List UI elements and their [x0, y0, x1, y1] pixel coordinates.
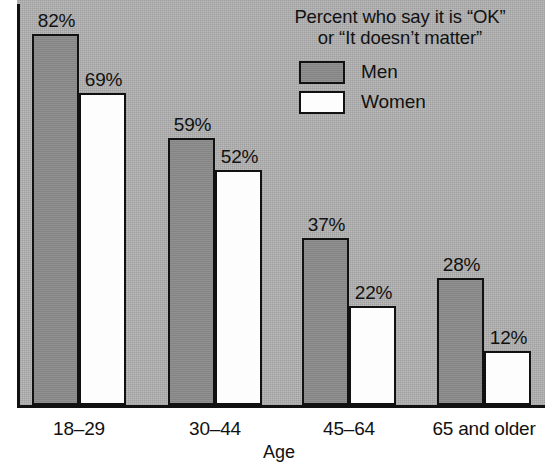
- bar-men-30-44: [168, 138, 215, 405]
- legend-label-men: Men: [361, 61, 398, 83]
- value-label-women-30-44: 52%: [213, 146, 266, 168]
- x-tick-label-30-44: 30–44: [140, 418, 290, 440]
- y-axis-line: [17, 4, 20, 408]
- x-axis-line: [17, 405, 545, 408]
- value-label-women-45-64: 22%: [347, 282, 400, 304]
- legend-swatch-men: [299, 61, 345, 84]
- bar-women-65-older: [484, 351, 531, 405]
- bar-women-30-44: [215, 170, 262, 405]
- bar-women-45-64: [349, 306, 396, 405]
- legend-swatch-women: [299, 91, 345, 114]
- legend-items: Men Women: [255, 57, 545, 117]
- legend-label-women: Women: [361, 91, 426, 113]
- value-label-men-65-older: 28%: [435, 254, 488, 276]
- value-label-men-18-29: 82%: [30, 10, 83, 32]
- value-label-women-65-older: 12%: [482, 327, 535, 349]
- legend-item-women: Women: [299, 87, 545, 117]
- x-tick-label-18-29: 18–29: [4, 418, 154, 440]
- value-label-women-18-29: 69%: [77, 69, 130, 91]
- legend-item-men: Men: [299, 57, 545, 87]
- x-tick-label-65-older: 65 and older: [389, 418, 558, 440]
- chart-figure: 82% 69% 59% 52% 37% 22% 28% 12% Percent …: [0, 0, 558, 468]
- legend-title-line-2: or “It doesn’t matter”: [255, 27, 545, 48]
- bar-women-18-29: [79, 93, 126, 405]
- bar-men-45-64: [302, 238, 349, 405]
- x-axis-title: Age: [0, 442, 558, 463]
- value-label-men-30-44: 59%: [166, 114, 219, 136]
- legend-title-line-1: Percent who say it is “OK”: [255, 6, 545, 27]
- bar-men-18-29: [32, 34, 79, 405]
- legend: Percent who say it is “OK” or “It doesn’…: [255, 6, 545, 117]
- bar-men-65-older: [437, 278, 484, 405]
- value-label-men-45-64: 37%: [300, 214, 353, 236]
